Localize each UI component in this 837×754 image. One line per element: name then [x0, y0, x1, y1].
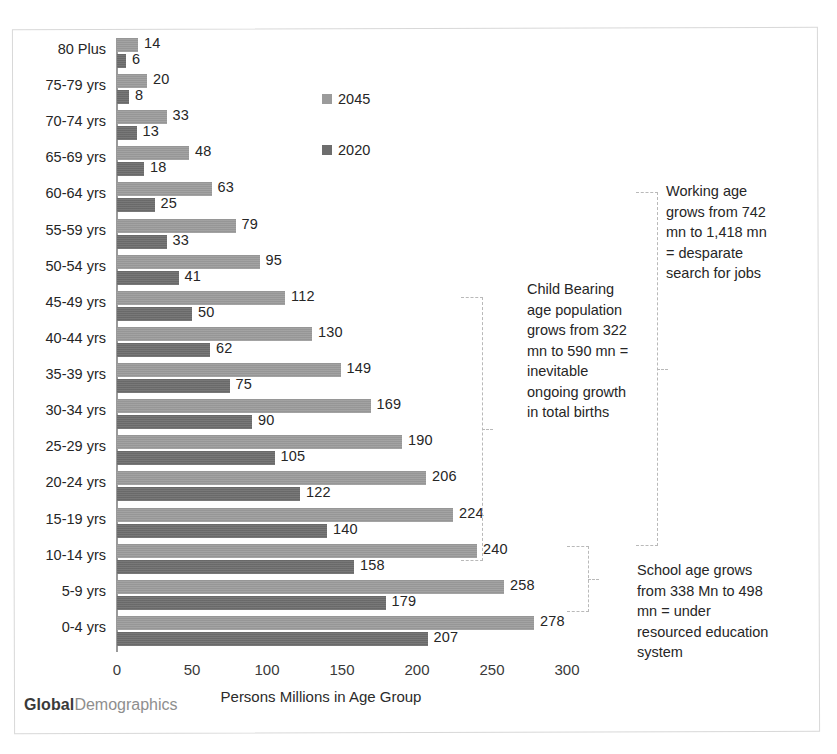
bar-value-label: 112 — [291, 288, 315, 304]
bar-2045-0-4-yrs[interactable] — [117, 616, 534, 630]
bar-value-label: 158 — [360, 557, 385, 573]
bar-2020-25-29-yrs[interactable] — [117, 451, 275, 465]
category-label: 0-4 yrs — [62, 619, 106, 635]
bar-2020-70-74-yrs[interactable] — [117, 126, 137, 140]
bar-2045-15-19-yrs[interactable] — [117, 508, 453, 522]
bar-value-label: 149 — [347, 360, 372, 376]
legend-item-2020[interactable]: 2020 — [322, 142, 370, 158]
bar-group: 75-79 yrs208 — [117, 74, 525, 110]
x-tick-label: 50 — [184, 661, 201, 678]
bar-value-label: 240 — [483, 541, 508, 557]
bar-2020-0-4-yrs[interactable] — [117, 632, 428, 646]
bar-2045-35-39-yrs[interactable] — [117, 363, 341, 377]
category-label: 45-49 yrs — [46, 294, 106, 310]
category-label: 35-39 yrs — [46, 366, 106, 382]
bar-2020-40-44-yrs[interactable] — [117, 343, 210, 357]
bar-group: 55-59 yrs7933 — [117, 219, 525, 255]
category-label: 70-74 yrs — [46, 113, 106, 129]
bar-2045-75-79-yrs[interactable] — [117, 74, 147, 88]
bar-2020-55-59-yrs[interactable] — [117, 235, 167, 249]
bar-value-label: 20 — [153, 71, 170, 87]
bar-2045-45-49-yrs[interactable] — [117, 291, 285, 305]
bar-2020-15-19-yrs[interactable] — [117, 524, 327, 538]
category-label: 65-69 yrs — [46, 149, 106, 165]
x-axis-ticks: 050100150200250300 — [117, 661, 525, 681]
brand-globaldemographics: GlobalDemographics — [24, 696, 178, 714]
x-tick-label: 0 — [113, 661, 121, 678]
bar-group: 50-54 yrs9541 — [117, 255, 525, 291]
bar-value-label: 79 — [242, 216, 259, 232]
bar-value-label: 62 — [216, 340, 233, 356]
legend-label-2020: 2020 — [338, 142, 370, 158]
bracket-working-age — [636, 192, 658, 546]
category-label: 5-9 yrs — [62, 583, 106, 599]
category-label: 80 Plus — [58, 41, 106, 57]
bar-value-label: 169 — [377, 396, 402, 412]
bar-value-label: 25 — [161, 195, 178, 211]
bar-value-label: 95 — [266, 252, 283, 268]
bar-value-label: 13 — [143, 123, 160, 139]
brand-bold-part: Global — [24, 696, 74, 713]
bar-2020-10-14-yrs[interactable] — [117, 560, 354, 574]
x-tick-label: 300 — [554, 661, 579, 678]
category-label: 40-44 yrs — [46, 330, 106, 346]
legend-label-2045: 2045 — [338, 91, 370, 107]
annotation-working-age: Working age grows from 742 mn to 1,418 m… — [666, 181, 770, 284]
bar-group: 80 Plus146 — [117, 38, 525, 74]
annotation-child-bearing: Child Bearing age population grows from … — [527, 279, 633, 423]
bar-value-label: 140 — [333, 521, 358, 537]
bar-value-label: 41 — [185, 268, 202, 284]
legend-item-2045[interactable]: 2045 — [322, 91, 370, 107]
category-label: 60-64 yrs — [46, 185, 106, 201]
population-age-group-chart: 80 Plus14675-79 yrs20870-74 yrs331365-69… — [0, 0, 837, 754]
bar-2020-50-54-yrs[interactable] — [117, 271, 179, 285]
bar-value-label: 6 — [132, 51, 140, 67]
x-tick-label: 100 — [254, 661, 279, 678]
category-label: 15-19 yrs — [46, 511, 106, 527]
bar-2020-30-34-yrs[interactable] — [117, 415, 252, 429]
bar-2045-50-54-yrs[interactable] — [117, 255, 260, 269]
bar-group: 0-4 yrs278207 — [117, 616, 525, 652]
bar-2045-70-74-yrs[interactable] — [117, 110, 167, 124]
bar-value-label: 63 — [218, 179, 235, 195]
brand-light-part: Demographics — [74, 696, 177, 713]
bar-2045-55-59-yrs[interactable] — [117, 219, 236, 233]
category-label: 30-34 yrs — [46, 402, 106, 418]
category-label: 10-14 yrs — [46, 547, 106, 563]
bar-2045-20-24-yrs[interactable] — [117, 471, 426, 485]
category-label: 50-54 yrs — [46, 258, 106, 274]
x-tick-label: 250 — [479, 661, 504, 678]
bar-2045-25-29-yrs[interactable] — [117, 435, 402, 449]
category-label: 20-24 yrs — [46, 474, 106, 490]
bar-2045-30-34-yrs[interactable] — [117, 399, 371, 413]
bar-2045-10-14-yrs[interactable] — [117, 544, 477, 558]
bar-value-label: 122 — [306, 484, 331, 500]
bar-2020-45-49-yrs[interactable] — [117, 307, 192, 321]
bar-2020-5-9-yrs[interactable] — [117, 596, 386, 610]
annotation-school-age: School age grows from 338 Mn to 498 mn =… — [637, 560, 777, 663]
bar-2020-75-79-yrs[interactable] — [117, 90, 129, 104]
bar-value-label: 8 — [135, 87, 143, 103]
bar-value-label: 179 — [392, 593, 417, 609]
x-tick-label: 200 — [404, 661, 429, 678]
bar-value-label: 258 — [510, 577, 535, 593]
bar-group: 65-69 yrs4818 — [117, 146, 525, 182]
category-label: 75-79 yrs — [46, 77, 106, 93]
bar-group: 60-64 yrs6325 — [117, 182, 525, 218]
bar-2020-65-69-yrs[interactable] — [117, 162, 144, 176]
bar-2045-40-44-yrs[interactable] — [117, 327, 312, 341]
bracket-pointer-school-age — [588, 579, 599, 580]
bar-2045-80-Plus[interactable] — [117, 38, 138, 52]
bar-2045-60-64-yrs[interactable] — [117, 182, 212, 196]
bar-2045-65-69-yrs[interactable] — [117, 146, 189, 160]
bar-value-label: 33 — [173, 232, 190, 248]
bar-2020-20-24-yrs[interactable] — [117, 487, 300, 501]
bar-2045-5-9-yrs[interactable] — [117, 580, 504, 594]
bar-value-label: 50 — [198, 304, 215, 320]
bar-value-label: 48 — [195, 143, 212, 159]
bar-value-label: 33 — [173, 107, 190, 123]
bar-2020-35-39-yrs[interactable] — [117, 379, 230, 393]
bar-2020-60-64-yrs[interactable] — [117, 198, 155, 212]
bar-2020-80-Plus[interactable] — [117, 54, 126, 68]
bracket-child-bearing — [461, 297, 483, 561]
